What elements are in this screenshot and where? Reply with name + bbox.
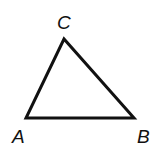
- vertex-label-b: B: [137, 126, 150, 147]
- vertex-label-c: C: [57, 12, 71, 33]
- triangle-diagram: C A B: [0, 0, 154, 150]
- vertex-label-a: A: [11, 126, 25, 147]
- triangle-abc: [26, 39, 134, 118]
